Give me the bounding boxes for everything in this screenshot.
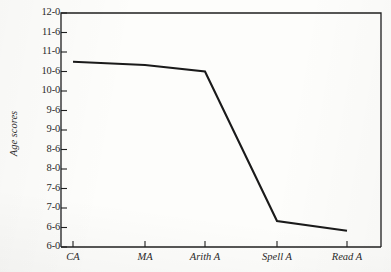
- x-tick-label: Arith A: [190, 251, 220, 262]
- x-axis-tick-labels: CAMAArith ASpell ARead A: [0, 0, 391, 272]
- x-tick-label: MA: [137, 251, 152, 262]
- x-tick-label: Read A: [332, 251, 362, 262]
- x-tick-label: Spell A: [262, 251, 292, 262]
- chart-figure: Age scores 12-011-611-010-610-09-69-08-6…: [0, 0, 391, 272]
- x-tick-label: CA: [66, 251, 79, 262]
